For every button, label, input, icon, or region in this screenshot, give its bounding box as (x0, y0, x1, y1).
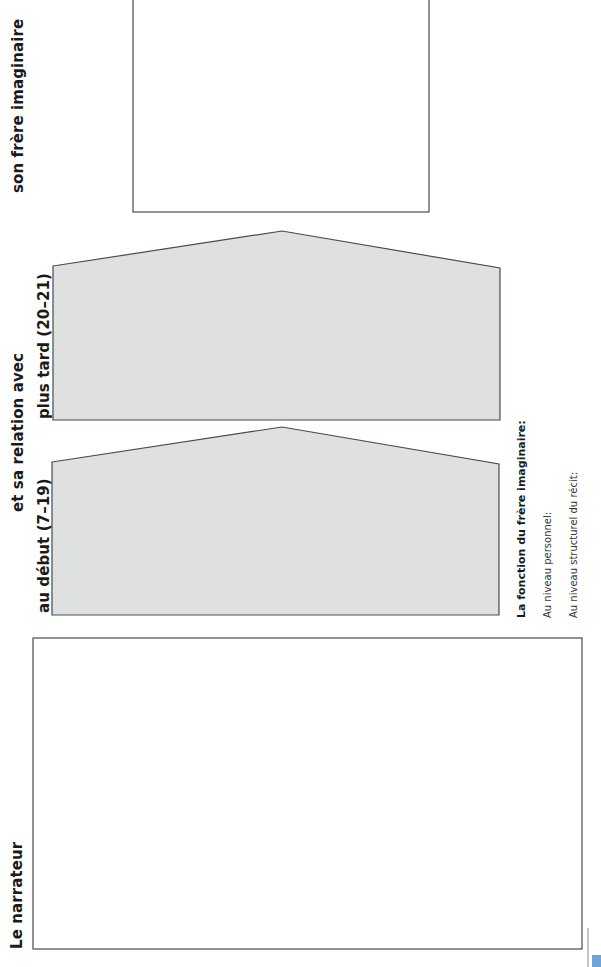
later-relation-box[interactable] (53, 231, 500, 420)
imaginary-brother-label: son frère imaginaire (9, 19, 27, 193)
personal-level-label: Au niveau personnel: (542, 512, 553, 618)
narrator-box[interactable] (33, 638, 582, 949)
function-title: La fonction du frère imaginaire: (515, 420, 528, 618)
structural-level-label: Au niveau structurel du récit: (568, 472, 579, 618)
narrator-label: Le narrateur (8, 842, 26, 949)
beginning-relation-box[interactable] (52, 427, 499, 615)
relation-label: et sa relation avec (9, 353, 27, 512)
corner-color-mark (592, 955, 601, 967)
worksheet-canvas (0, 0, 601, 967)
beginning-label: au début (7–19) (35, 478, 53, 613)
imaginary-brother-box[interactable] (133, 0, 429, 212)
later-label: plus tard (20–21) (35, 273, 53, 419)
